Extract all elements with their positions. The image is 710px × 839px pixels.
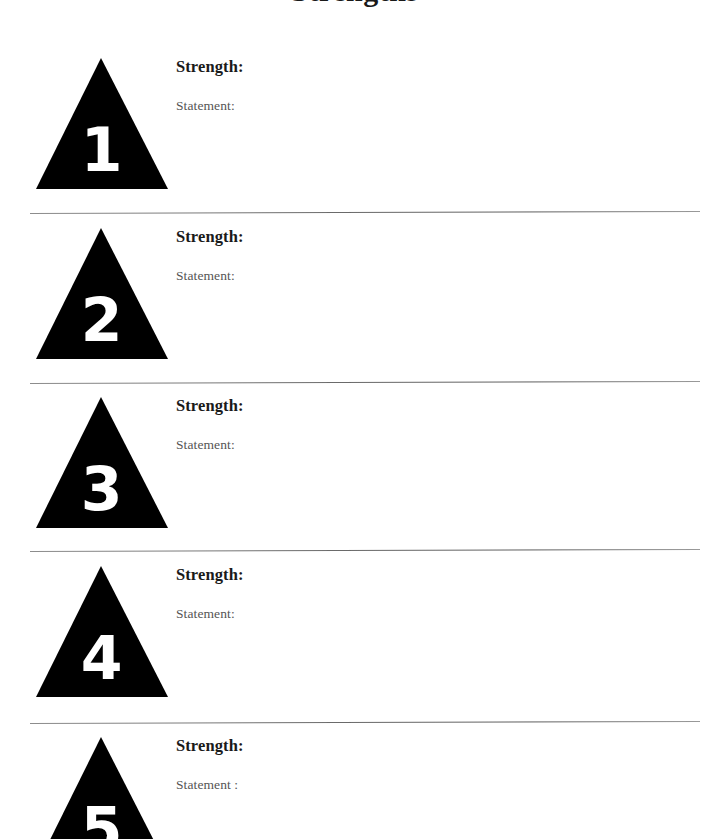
entry-labels-3: Strength: Statement: [176,397,244,451]
strength-entry-2: 2 Strength: Statement: [0,228,710,382]
strength-label: Strength: [176,738,244,755]
triangle-number: 4 [81,623,122,693]
triangle-number: 3 [81,454,122,524]
strength-label: Strength: [176,398,244,415]
number-triangle-5: 5 [36,737,168,839]
statement-label: Statement: [176,269,244,283]
strength-label: Strength: [176,59,244,76]
entry-labels-2: Strength: Statement: [176,228,244,282]
strength-entry-1: 1 Strength: Statement: [0,58,710,212]
entry-labels-4: Strength: Statement: [176,566,244,620]
triangle-number: 5 [81,794,122,839]
page-title: Strengths [0,0,710,8]
strength-entry-3: 3 Strength: Statement: [0,397,710,551]
strength-label: Strength: [176,229,244,246]
statement-label: Statement: [176,99,244,113]
strength-entry-5: 5 Strength: Statement : [0,737,710,839]
strength-label: Strength: [176,567,244,584]
number-triangle-3: 3 [36,397,168,529]
worksheet-page: Strengths 1 Strength: Statement: 2 Stren… [0,0,710,839]
entry-labels-5: Strength: Statement : [176,737,244,791]
number-triangle-1: 1 [36,58,168,190]
number-triangle-4: 4 [36,566,168,698]
page-title-clipped: Strengths [0,0,710,16]
statement-label: Statement: [176,607,244,621]
entry-labels-1: Strength: Statement: [176,58,244,112]
section-separator-4 [30,721,700,724]
strength-entry-4: 4 Strength: Statement: [0,566,710,720]
statement-label: Statement : [176,778,244,792]
statement-label: Statement: [176,438,244,452]
triangle-number: 1 [81,115,122,185]
triangle-number: 2 [81,285,122,355]
number-triangle-2: 2 [36,228,168,360]
